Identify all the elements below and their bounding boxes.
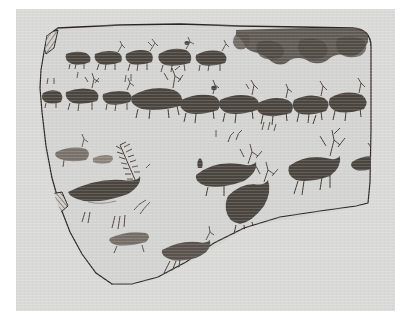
rock-art-panel-illustration: [0, 0, 415, 327]
figure-root: rock art panel with cervid (deer) figure…: [0, 0, 415, 327]
